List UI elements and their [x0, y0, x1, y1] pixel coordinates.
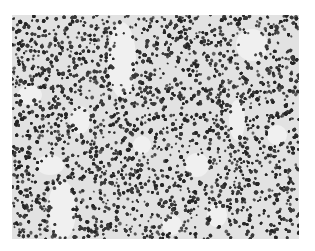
- cell-texture: [12, 15, 299, 239]
- micrograph-image: [12, 15, 299, 239]
